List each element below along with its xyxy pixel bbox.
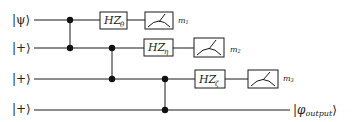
qubit-3-input-label: |+⟩: [12, 72, 31, 86]
measurement-meter-2: [194, 38, 224, 57]
measurement-label-3: m3: [283, 74, 294, 83]
hz-zeta-gate: HZ ζ: [195, 70, 225, 88]
cz-gate-3-4: [162, 76, 168, 113]
qubit-1-input-label: |ψ⟩: [12, 13, 30, 27]
control-dot: [162, 107, 168, 113]
output-state-label: |φoutput⟩: [293, 103, 337, 118]
qubit-4-input-label: |+⟩: [12, 102, 31, 116]
measurement-label-1: m1: [178, 16, 189, 25]
measurement-label-2: m2: [230, 45, 241, 54]
measurement-meter-3: [248, 70, 278, 88]
svg-text:HZ: HZ: [198, 73, 217, 86]
hz-theta-gate: HZ θ: [100, 12, 127, 29]
measurement-meter-1: [145, 12, 173, 29]
control-dot: [109, 45, 115, 51]
control-dot: [109, 76, 115, 82]
svg-text:HZ: HZ: [147, 41, 166, 54]
cz-gate-1-2: [67, 17, 73, 51]
control-dot: [67, 17, 73, 23]
qubit-2-input-label: |+⟩: [12, 41, 31, 55]
svg-text:HZ: HZ: [103, 14, 122, 27]
cz-gate-2-3: [109, 45, 115, 82]
control-dot: [162, 76, 168, 82]
hz-eta-gate: HZ η: [144, 39, 173, 56]
control-dot: [67, 45, 73, 51]
quantum-circuit: |ψ⟩ |+⟩ |+⟩ |+⟩ HZ θ HZ η: [0, 0, 359, 122]
